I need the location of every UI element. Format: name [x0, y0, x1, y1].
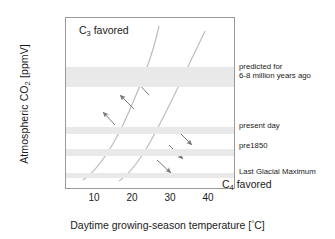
y-tick-minor-250 — [65, 152, 66, 153]
plot-area — [65, 17, 235, 189]
callout-pre1850: pre1850 — [239, 141, 268, 150]
x-tick-label-40: 40 — [193, 192, 223, 203]
y-axis-label-units: [ppmV] — [18, 44, 30, 81]
band-last-glacial-maximum — [66, 173, 234, 178]
callout-present-day: present day — [239, 121, 280, 130]
y-tick-500 — [65, 80, 66, 81]
x-tick-top-20 — [133, 17, 134, 18]
callout-predicted-line2: 6-8 million years ago — [239, 71, 311, 80]
arrow-up-left-2 — [120, 95, 134, 109]
y-tick-600 — [65, 51, 66, 52]
y-tick-300 — [65, 138, 66, 139]
x-tick-label-30: 30 — [155, 192, 185, 203]
y-tick-minor-550 — [65, 65, 66, 66]
y-tick-700 — [65, 22, 66, 23]
band-present-day — [66, 127, 234, 134]
band-predicted-6-8-Ma — [66, 67, 234, 87]
x-axis-label-units: C] — [254, 219, 265, 231]
band-pre1850 — [66, 149, 234, 156]
x-tick-top-minor-5 — [76, 17, 77, 18]
callout-last-glacial-maximum: Last Glacial Maximum — [239, 167, 316, 176]
c3-letter: C — [79, 24, 87, 36]
x-axis-label-text: Daytime growing-season temperature [ — [70, 219, 251, 231]
x-tick-top-30 — [171, 17, 172, 18]
c3-favored-label: C3 favored — [79, 24, 129, 38]
x-tick-top-10 — [95, 17, 96, 18]
y-tick-minor-650 — [65, 36, 66, 37]
y-tick-400 — [65, 109, 66, 110]
arrow-down-right-3 — [157, 160, 171, 173]
x-axis-label: Daytime growing-season temperature [°C] — [0, 219, 335, 231]
x-tick-top-minor-15 — [114, 17, 115, 18]
y-tick-200 — [65, 167, 66, 168]
crossover-curve-lower — [83, 26, 159, 180]
callout-predicted-6-8-Ma: predicted for 6-8 million years ago — [239, 62, 311, 81]
arrow-up-left-1 — [103, 112, 115, 125]
x-tick-top-minor-45 — [228, 17, 229, 18]
x-tick-top-minor-25 — [152, 17, 153, 18]
y-tick-minor-450 — [65, 94, 66, 95]
co2-temperature-chart: Atmospheric CO2 [ppmV] Daytime growing-s… — [0, 0, 335, 239]
callout-predicted-line1: predicted for — [239, 62, 311, 71]
x-tick-label-20: 20 — [117, 192, 147, 203]
curves-and-arrows-layer — [66, 18, 235, 189]
x-tick-label-10: 10 — [79, 192, 109, 203]
y-axis-label: Atmospheric CO2 [ppmV] — [18, 17, 32, 192]
c4-favored-label: C4 favored — [222, 178, 272, 192]
y-tick-minor-150 — [65, 181, 66, 182]
y-tick-minor-350 — [65, 123, 66, 124]
c4-favored-text: favored — [234, 178, 272, 190]
y-axis-label-subscript: 2 — [23, 81, 32, 85]
y-axis-label-text: Atmospheric CO — [18, 85, 30, 163]
x-tick-top-40 — [209, 17, 210, 18]
x-tick-top-minor-35 — [190, 17, 191, 18]
c3-favored-text: favored — [91, 24, 129, 36]
c4-letter: C — [222, 178, 230, 190]
